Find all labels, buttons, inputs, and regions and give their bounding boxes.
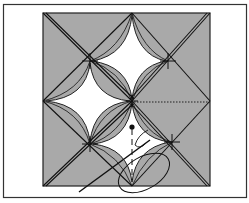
pin-head xyxy=(129,124,134,129)
quilt-diagram xyxy=(0,0,249,203)
